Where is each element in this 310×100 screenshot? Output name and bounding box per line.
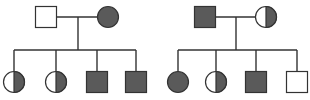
right-child-3-male-affected [246, 72, 267, 93]
pedigree-diagram [0, 0, 310, 100]
right-parent-2-female-carrier [256, 7, 277, 28]
right-parent-1-male-affected [195, 7, 216, 28]
right-child-1-female-affected [168, 72, 189, 93]
left-child-1-female-carrier [4, 72, 25, 93]
left-child-2-female-carrier [46, 72, 67, 93]
left-child-4-male-affected [126, 72, 147, 93]
left-child-3-male-affected [87, 72, 108, 93]
right-child-2-female-carrier [206, 72, 227, 93]
right-child-4-male-unaffected [287, 72, 308, 93]
left-parent-2-female-affected [98, 7, 119, 28]
left-parent-1-male-unaffected [36, 7, 57, 28]
